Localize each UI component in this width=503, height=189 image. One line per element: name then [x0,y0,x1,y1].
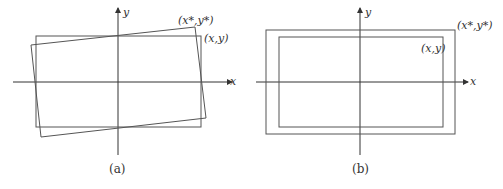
x-axis-label-b: x [470,76,476,87]
caption-b: (b) [352,163,369,175]
rotated-point-label-a: (x*,y*) [178,15,214,26]
caption-a: (a) [109,163,126,175]
original-point-label-b: (x,y) [421,43,446,54]
diagram-canvas [0,0,503,189]
y-axis-label-a: y [123,7,129,18]
original-point-label-a: (x,y) [204,33,229,44]
panel-a [13,8,232,155]
y-axis-label-b: y [365,7,371,18]
panel-b [256,8,468,155]
x-axis-label-a: x [230,76,236,87]
scaled-point-label-b: (x*,y*) [457,20,493,31]
